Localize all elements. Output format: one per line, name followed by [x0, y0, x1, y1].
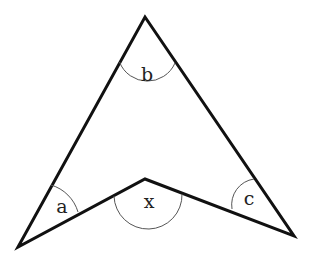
angle-label-c: c	[244, 187, 255, 209]
angle-label-b: b	[141, 63, 153, 85]
diagram-canvas: b a x c	[0, 0, 311, 263]
angle-label-a: a	[56, 195, 67, 217]
angle-label-x: x	[144, 190, 155, 212]
